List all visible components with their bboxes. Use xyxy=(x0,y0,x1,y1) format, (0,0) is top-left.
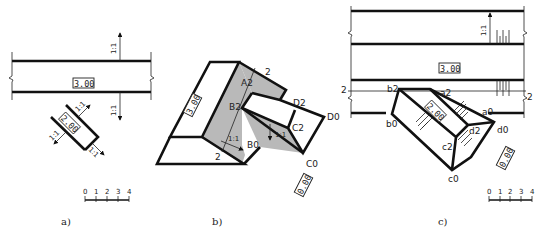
slope-label-c: 1:1 xyxy=(480,25,488,36)
scale-bar-c: 0 1 2 3 4 xyxy=(487,188,535,202)
panel-c: 2 2 1:1 3.00 xyxy=(341,6,535,227)
point-d2-c: d2 xyxy=(469,126,480,136)
scale-tick-c-0: 0 xyxy=(487,188,491,196)
panel-a: 3.00 1:1 1:1 2.00 1:1 1:1 1:1 0 xyxy=(9,33,154,227)
point-a0-c: a0 xyxy=(482,107,494,117)
point-c0: C0 xyxy=(306,159,318,169)
caption-a: a) xyxy=(61,216,71,227)
scale-tick-1: 1 xyxy=(94,188,98,196)
point-b2: B2 xyxy=(229,102,241,112)
point-a2-c: a2 xyxy=(440,88,451,98)
scale-tick-2: 2 xyxy=(105,188,109,196)
point-b0-c: b0 xyxy=(386,119,398,129)
section-mark-right: 2 xyxy=(527,92,533,102)
scale-tick-c-1: 1 xyxy=(498,188,502,196)
break-line-right xyxy=(150,52,154,100)
point-c0-c: c0 xyxy=(448,174,459,184)
caption-c: c) xyxy=(438,216,448,227)
slope-label-down: 1:1 xyxy=(110,105,118,116)
point-b0: B0 xyxy=(247,140,259,150)
road-elevation-label-c: 3.00 xyxy=(440,64,460,74)
slope-label-c: 1:1 xyxy=(275,131,286,139)
ramp-hatch-1 xyxy=(416,112,432,130)
panel-b: 3.00 2 2 A2 B2 B0 C2 C0 D2 D0 1:1 1:1 0.… xyxy=(157,62,340,227)
ramp: 2.00 1:1 1:1 1:1 xyxy=(48,100,104,160)
ground-elevation-label: 0.00 xyxy=(295,173,313,196)
point-c2-c: c2 xyxy=(442,142,453,152)
point-c2: C2 xyxy=(292,123,304,133)
scale-bar-a: 0 1 2 3 4 xyxy=(83,188,132,202)
scale-tick-3: 3 xyxy=(116,188,120,196)
slope-label-up: 1:1 xyxy=(110,43,118,54)
section-mark-left: 2 xyxy=(341,85,347,95)
scale-tick-c-2: 2 xyxy=(508,188,512,196)
ramp-slope-label-1: 1:1 xyxy=(74,100,88,114)
ground-elevation-label-c: 0.00 xyxy=(497,146,515,169)
scale-tick-c-3: 3 xyxy=(519,188,523,196)
ramp-slope-label-2: 1:1 xyxy=(48,129,62,143)
road-elevation-label: 3.00 xyxy=(74,79,94,89)
width-label-top: 2 xyxy=(265,67,271,77)
scale-tick-c-4: 4 xyxy=(530,188,535,196)
point-d2: D2 xyxy=(293,98,306,108)
scale-tick-4: 4 xyxy=(127,188,132,196)
caption-b: b) xyxy=(212,216,222,227)
break-line-left xyxy=(9,52,13,100)
point-d0-c: d0 xyxy=(497,125,509,135)
platform-elevation-label: 3.00 xyxy=(184,93,202,116)
width-label-bottom: 2 xyxy=(215,152,221,162)
break-line-left-c xyxy=(348,6,352,118)
point-b2-c: b2 xyxy=(387,84,398,94)
slope-hatch-mid xyxy=(497,80,509,96)
slope-label-b0: 1:1 xyxy=(228,135,239,143)
drawing-canvas: 3.00 1:1 1:1 2.00 1:1 1:1 1:1 0 xyxy=(0,0,542,236)
scale-tick-0: 0 xyxy=(83,188,87,196)
point-d0: D0 xyxy=(327,112,340,122)
point-a2: A2 xyxy=(241,78,253,88)
slope-hatch-top xyxy=(497,30,509,44)
